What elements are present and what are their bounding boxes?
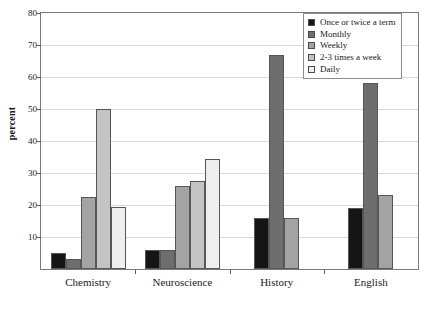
- legend-swatch-icon: [308, 42, 315, 49]
- bar: [269, 55, 284, 269]
- bar: [348, 208, 363, 269]
- legend-item: Daily: [308, 63, 395, 75]
- x-tick-label: Chemistry: [65, 276, 111, 288]
- bar: [254, 218, 269, 269]
- legend-item: Monthly: [308, 29, 395, 41]
- y-tick-label: 80: [28, 9, 37, 18]
- legend-item: Once or twice a term: [308, 17, 395, 29]
- y-tick-label: 70: [28, 41, 37, 50]
- x-tick-label: Neuroscience: [152, 276, 212, 288]
- legend-swatch-icon: [308, 19, 315, 26]
- bar: [96, 109, 111, 269]
- bar: [205, 159, 220, 269]
- bar: [145, 250, 160, 269]
- y-tick-label: 60: [28, 73, 37, 82]
- bar: [190, 181, 205, 269]
- y-tick-label: 10: [28, 233, 37, 242]
- legend-label: Once or twice a term: [320, 18, 395, 27]
- bar: [284, 218, 299, 269]
- x-tick-mark: [230, 270, 231, 274]
- bar: [363, 83, 378, 269]
- legend-swatch-icon: [308, 31, 315, 38]
- bar: [175, 186, 190, 269]
- x-tick-mark: [135, 270, 136, 274]
- legend-swatch-icon: [308, 54, 315, 61]
- legend-swatch-icon: [308, 66, 315, 73]
- legend: Once or twice a termMonthlyWeekly2-3 tim…: [303, 13, 402, 79]
- bar: [81, 197, 96, 269]
- y-axis-title: percent: [6, 89, 17, 159]
- bar-group: [135, 13, 229, 269]
- legend-item: Weekly: [308, 40, 395, 52]
- bar-group: [41, 13, 135, 269]
- y-tick-label: 20: [28, 201, 37, 210]
- x-tick-mark: [324, 270, 325, 274]
- bar: [51, 253, 66, 269]
- legend-label: Monthly: [320, 30, 351, 39]
- x-tick-label: History: [260, 276, 293, 288]
- legend-label: Daily: [320, 65, 340, 74]
- y-tick-label: 50: [28, 105, 37, 114]
- legend-label: 2-3 times a week: [320, 53, 381, 62]
- y-tick-label: 30: [28, 169, 37, 178]
- legend-label: Weekly: [320, 41, 347, 50]
- bar: [111, 207, 126, 269]
- bar: [160, 250, 175, 269]
- x-tick-label: English: [354, 276, 388, 288]
- y-tick-label: 40: [28, 137, 37, 146]
- bar: [66, 259, 81, 269]
- bar: [378, 195, 393, 269]
- bar-chart: percent 1020304050607080 ChemistryNeuros…: [0, 0, 438, 317]
- legend-item: 2-3 times a week: [308, 52, 395, 64]
